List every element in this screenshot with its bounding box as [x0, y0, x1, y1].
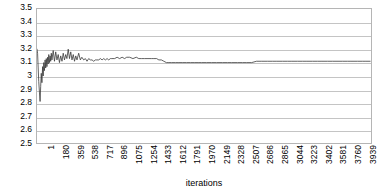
x-axis: 1180359538717896107512541433161217911970… — [36, 145, 372, 179]
series-polyline — [37, 49, 370, 101]
y-tick-label: 3.5 — [20, 3, 32, 12]
x-tick-label: 2149 — [223, 145, 232, 164]
x-tick-label: 2865 — [281, 145, 290, 164]
y-tick-label: 3 — [27, 71, 32, 80]
chart-container: 3.53.43.33.23.132.92.82.72.62.5 11803595… — [0, 0, 388, 193]
y-tick-label: 3.2 — [20, 44, 32, 53]
y-tick-label: 2.7 — [20, 112, 32, 121]
x-tick-label: 896 — [120, 145, 129, 159]
x-tick-label: 1612 — [179, 145, 188, 164]
y-tick-label: 3.1 — [20, 57, 32, 66]
x-tick-label: 359 — [77, 145, 86, 159]
y-tick-label: 2.6 — [20, 125, 32, 134]
x-tick-label: 2507 — [252, 145, 261, 164]
y-tick-label: 2.8 — [20, 98, 32, 107]
x-tick-label: 3044 — [296, 145, 305, 164]
y-tick-label: 3.4 — [20, 17, 32, 26]
x-tick-label: 3402 — [325, 145, 334, 164]
y-tick-label: 3.3 — [20, 30, 32, 39]
series-line-value — [37, 9, 371, 143]
plot-area — [36, 8, 372, 144]
y-axis: 3.53.43.33.23.132.92.82.72.62.5 — [0, 0, 34, 193]
x-tick-label: 1791 — [193, 145, 202, 164]
x-tick-label: 3760 — [354, 145, 363, 164]
x-axis-title: iterations — [36, 178, 372, 188]
x-tick-label: 2328 — [237, 145, 246, 164]
x-tick-label: 717 — [106, 145, 115, 159]
x-tick-label: 1 — [47, 145, 56, 150]
y-tick-label: 2.5 — [20, 139, 32, 148]
x-tick-label: 180 — [62, 145, 71, 159]
x-tick-label: 3223 — [310, 145, 319, 164]
x-tick-label: 1970 — [208, 145, 217, 164]
x-tick-label: 3939 — [369, 145, 378, 164]
x-tick-label: 1254 — [150, 145, 159, 164]
x-tick-label: 3581 — [339, 145, 348, 164]
x-tick-label: 1433 — [164, 145, 173, 164]
x-tick-label: 1075 — [135, 145, 144, 164]
x-tick-label: 2686 — [266, 145, 275, 164]
x-tick-label: 538 — [91, 145, 100, 159]
y-tick-label: 2.9 — [20, 85, 32, 94]
